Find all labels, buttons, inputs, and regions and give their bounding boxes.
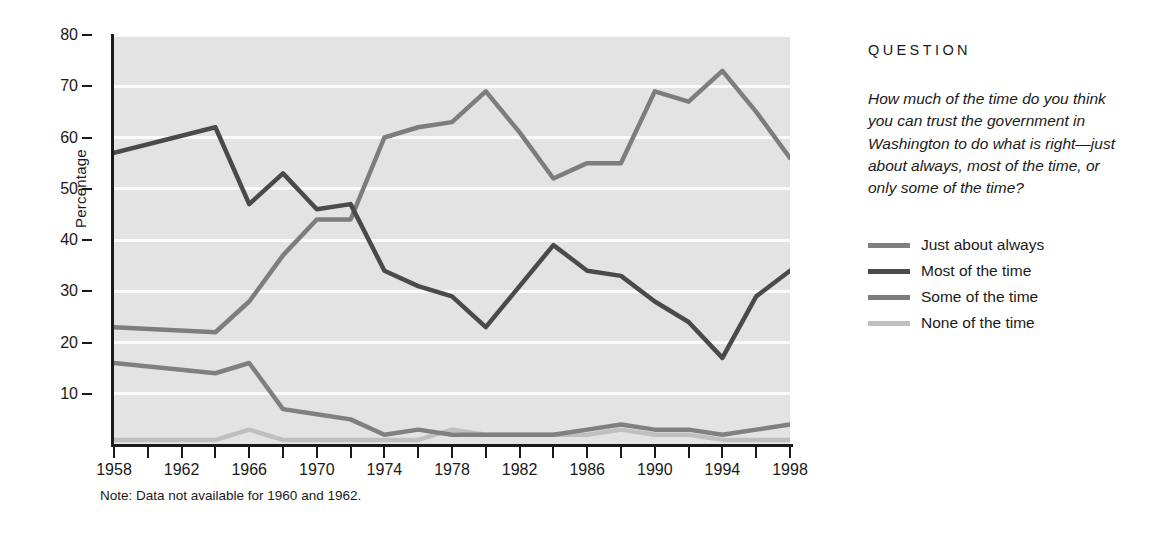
x-axis-tick-mark [519, 447, 521, 458]
chart-page: Percentage 1020304050607080 195819621966… [0, 0, 1153, 535]
legend-color-swatch [868, 295, 910, 300]
y-axis-tick-label: 60 [60, 130, 78, 146]
x-axis-tick-mark [586, 447, 588, 458]
series-line [114, 363, 790, 435]
x-axis-tick-mark [214, 447, 216, 458]
question-text: How much of the time do you think you ca… [868, 88, 1132, 200]
y-axis-line [111, 34, 114, 446]
x-axis-tick-mark [620, 447, 622, 458]
x-axis-tick-mark [282, 447, 284, 458]
x-axis-tick-mark [755, 447, 757, 458]
x-axis-tick-mark [316, 447, 318, 458]
x-axis-tick-label: 1978 [434, 461, 470, 479]
side-panel: QUESTION How much of the time do you thi… [868, 0, 1148, 535]
x-axis-tick-mark [552, 447, 554, 458]
plot-area [114, 35, 790, 445]
series-lines [114, 35, 790, 445]
legend-item[interactable]: None of the time [868, 310, 1138, 336]
y-axis-tick-label: 20 [60, 335, 78, 351]
y-axis-tick-mark [82, 85, 92, 87]
x-axis-tick-label: 1998 [772, 461, 808, 479]
x-axis-tick-mark [451, 447, 453, 458]
x-axis-tick-label: 1966 [231, 461, 267, 479]
y-axis-tick-mark [82, 239, 92, 241]
x-axis-tick-label: 1962 [164, 461, 200, 479]
x-axis-tick-mark [181, 447, 183, 458]
x-axis-tick-mark [113, 447, 115, 458]
y-axis-tick-mark [82, 290, 92, 292]
y-axis-tick-label: 70 [60, 78, 78, 94]
y-axis-tick-label: 80 [60, 27, 78, 43]
x-axis-tick-mark [485, 447, 487, 458]
x-axis-tick-label: 1970 [299, 461, 335, 479]
x-axis-tick-mark [654, 447, 656, 458]
legend-color-swatch [868, 321, 910, 326]
legend-item-label: None of the time [921, 314, 1035, 332]
legend-item[interactable]: Some of the time [868, 284, 1138, 310]
x-axis-tick-label: 1990 [637, 461, 673, 479]
y-axis-tick-label: 50 [60, 181, 78, 197]
x-axis-tick-label: 1982 [502, 461, 538, 479]
y-axis-tick-mark [82, 137, 92, 139]
x-axis-tick-mark [721, 447, 723, 458]
legend-item-label: Some of the time [921, 288, 1038, 306]
chart-note: Note: Data not available for 1960 and 19… [100, 488, 361, 503]
x-axis-tick-mark [248, 447, 250, 458]
legend-item-label: Just about always [921, 236, 1044, 254]
x-axis-tick-mark [147, 447, 149, 458]
y-axis-tick-mark [82, 188, 92, 190]
x-axis-tick-label: 1974 [367, 461, 403, 479]
x-axis-tick-label: 1986 [569, 461, 605, 479]
legend-color-swatch [868, 243, 910, 248]
y-axis-tick-mark [82, 34, 92, 36]
x-axis-tick-mark [350, 447, 352, 458]
series-line [114, 71, 790, 332]
y-axis-tick-mark [82, 393, 92, 395]
legend-item[interactable]: Just about always [868, 232, 1138, 258]
series-line [114, 127, 790, 358]
legend-item-label: Most of the time [921, 262, 1031, 280]
x-axis-tick-label: 1994 [705, 461, 741, 479]
y-axis-tick-label: 10 [60, 386, 78, 402]
x-axis-tick-label: 1958 [96, 461, 132, 479]
line-chart: Percentage 1020304050607080 195819621966… [0, 0, 830, 535]
x-axis-tick-mark [417, 447, 419, 458]
x-axis-tick-mark [688, 447, 690, 458]
x-axis-tick-mark [383, 447, 385, 458]
question-heading: QUESTION [868, 42, 971, 58]
chart-legend: Just about alwaysMost of the timeSome of… [868, 232, 1138, 336]
x-axis-tick-mark [789, 447, 791, 458]
legend-color-swatch [868, 269, 910, 274]
y-axis-tick-mark [82, 342, 92, 344]
y-axis-tick-label: 30 [60, 283, 78, 299]
y-axis-tick-label: 40 [60, 232, 78, 248]
legend-item[interactable]: Most of the time [868, 258, 1138, 284]
